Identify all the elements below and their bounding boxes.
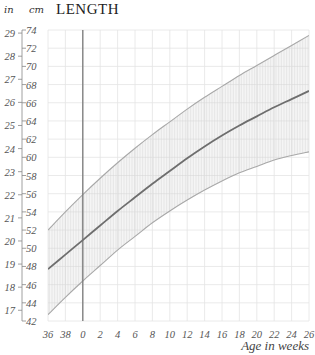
inch-tick-label: 18: [5, 282, 16, 293]
cm-tick-label: 50: [26, 243, 37, 254]
inch-tick-label: 24: [5, 144, 16, 155]
inch-tick-label: 20: [5, 236, 16, 247]
cm-tick-label: 70: [26, 61, 37, 72]
inch-tick-label: 17: [5, 305, 16, 316]
growth-chart: 4244464850525456586062646668707274171819…: [0, 0, 315, 355]
cm-tick-label: 54: [26, 207, 37, 218]
x-tick-label: 12: [182, 329, 193, 340]
x-tick-label: 14: [199, 329, 210, 340]
lower-band-curve: [48, 152, 309, 315]
x-tick-label: 8: [150, 329, 156, 340]
x-tick-label: 0: [80, 329, 86, 340]
cm-tick-label: 60: [26, 152, 37, 163]
x-tick-label: 36: [42, 329, 54, 340]
cm-tick-label: 74: [26, 25, 37, 36]
cm-tick-label: 66: [26, 98, 37, 109]
inch-tick-label: 27: [5, 74, 16, 85]
cm-tick-label: 52: [26, 225, 37, 236]
inch-tick-label: 29: [5, 28, 16, 39]
inch-tick-label: 23: [5, 167, 16, 178]
cm-tick-label: 72: [26, 43, 37, 54]
inch-tick-label: 19: [5, 259, 16, 270]
percentile-band: [48, 35, 309, 314]
x-tick-label: 6: [132, 329, 138, 340]
upper-band-curve: [48, 35, 309, 230]
cm-tick-label: 62: [26, 134, 37, 145]
cm-tick-label: 64: [26, 116, 37, 127]
inch-tick-label: 25: [5, 120, 16, 131]
cm-tick-label: 44: [26, 298, 37, 309]
x-tick-label: 4: [115, 329, 121, 340]
x-tick-label: 2: [98, 329, 104, 340]
median-curve: [48, 91, 309, 269]
x-tick-label: 38: [59, 329, 71, 340]
x-axis-title: Age in weeks: [241, 338, 309, 354]
x-tick-label: 16: [217, 329, 228, 340]
cm-tick-label: 46: [26, 280, 37, 291]
cm-tick-label: 68: [26, 80, 37, 91]
inch-tick-label: 28: [5, 51, 16, 62]
cm-tick-label: 56: [26, 189, 37, 200]
inch-tick-label: 26: [5, 97, 16, 108]
cm-tick-label: 58: [26, 171, 37, 182]
x-tick-label: 10: [165, 329, 176, 340]
cm-tick-label: 42: [26, 316, 37, 327]
inch-tick-label: 21: [5, 213, 16, 224]
inch-tick-label: 22: [5, 190, 16, 201]
cm-tick-label: 48: [26, 261, 37, 272]
